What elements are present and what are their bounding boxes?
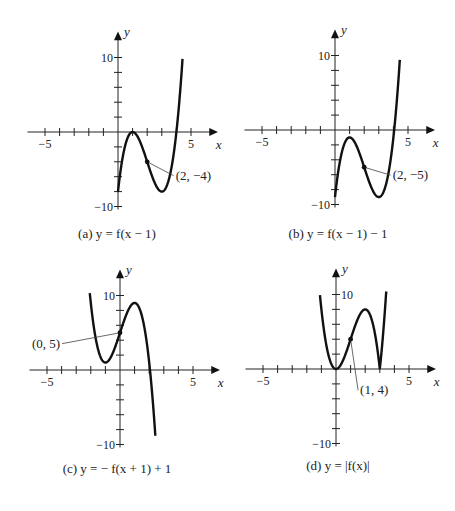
x-tick-label: 5 <box>190 375 196 389</box>
x-tick-label: 5 <box>405 135 411 149</box>
x-axis-arrow-icon <box>427 365 436 373</box>
function-curve <box>335 60 400 197</box>
y-axis-arrow-icon <box>116 269 124 278</box>
x-axis-arrow-icon <box>211 366 220 374</box>
plot-c: −5510−10xy(0, 5) <box>29 262 223 451</box>
x-axis-label: x <box>217 375 224 390</box>
plot-a: −5510−10xy(2, −4) <box>27 24 221 213</box>
y-tick-label: 10 <box>341 288 353 302</box>
y-axis-label: y <box>124 262 132 277</box>
x-axis-label: x <box>433 374 440 389</box>
annotation-point <box>362 165 367 170</box>
x-axis-arrow-icon <box>209 128 218 136</box>
annotation-label: (1, 4) <box>360 382 388 397</box>
caption-a: (a) y = f(x − 1) <box>78 226 156 242</box>
annotation-leader <box>364 167 390 175</box>
y-tick-label: −10 <box>311 198 330 212</box>
annotation-point <box>145 159 150 164</box>
caption-c: (c) y = − f(x + 1) + 1 <box>63 461 172 477</box>
y-tick-label: −10 <box>94 200 113 214</box>
annotation-leader <box>62 333 120 344</box>
y-axis-label: y <box>122 24 130 39</box>
figure-canvas: −5510−10xy(2, −4)−5510−10xy(2, −5)−5510−… <box>0 0 455 511</box>
x-axis-label: x <box>432 135 439 150</box>
y-axis-arrow-icon <box>332 268 340 277</box>
annotation-label: (2, −5) <box>393 167 429 182</box>
y-axis-arrow-icon <box>331 29 339 38</box>
y-tick-label: 10 <box>318 49 330 63</box>
y-tick-label: 10 <box>103 289 115 303</box>
caption-b: (b) y = f(x − 1) − 1 <box>289 226 388 242</box>
x-tick-label: −5 <box>256 135 269 149</box>
annotation-point <box>348 337 353 342</box>
caption-d: (d) y = |f(x)| <box>306 458 369 474</box>
function-curve <box>118 59 183 192</box>
x-tick-label: −5 <box>257 374 270 388</box>
y-tick-label: −10 <box>96 438 115 452</box>
y-axis-arrow-icon <box>114 31 122 40</box>
annotation-label: (0, 5) <box>32 336 60 351</box>
x-tick-label: 5 <box>188 137 194 151</box>
annotation-point <box>118 330 123 335</box>
plot-d: −5510−10xy(1, 4) <box>245 261 439 450</box>
plot-b: −5510−10xy(2, −5) <box>244 22 438 211</box>
annotation-label: (2, −4) <box>176 168 212 183</box>
y-axis-label: y <box>339 22 347 37</box>
y-tick-label: −10 <box>312 437 331 451</box>
x-axis-label: x <box>215 137 222 152</box>
x-tick-label: −5 <box>39 137 52 151</box>
x-axis-arrow-icon <box>426 126 435 134</box>
y-axis-label: y <box>340 261 348 276</box>
x-tick-label: −5 <box>41 375 54 389</box>
annotation-leader <box>351 339 358 390</box>
y-tick-label: 10 <box>101 51 113 65</box>
x-tick-label: 5 <box>406 374 412 388</box>
